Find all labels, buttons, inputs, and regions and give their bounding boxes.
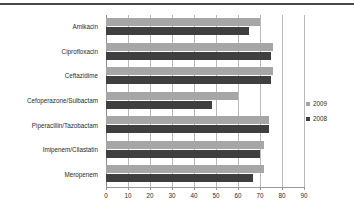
- x-tick-label: 10: [116, 192, 140, 200]
- x-tick-label: 30: [160, 192, 184, 200]
- bar-chart-figure: AmikacinCiprofloxacinCeftazidimeCefopera…: [0, 0, 354, 214]
- legend-label: 2008: [313, 115, 327, 123]
- x-tick: [194, 187, 195, 190]
- bar-2009: [106, 165, 264, 173]
- x-tick-label: 70: [248, 192, 272, 200]
- category-label: Amikacin: [0, 23, 98, 31]
- category-label: Ciprofloxacin: [0, 48, 98, 56]
- bar-2009: [106, 141, 264, 149]
- legend-swatch-icon: [306, 102, 310, 106]
- bar-2009: [106, 18, 260, 26]
- x-tick-label: 40: [182, 192, 206, 200]
- bar-2008: [106, 125, 269, 133]
- x-tick-label: 0: [94, 192, 118, 200]
- plot-area: [106, 15, 304, 187]
- legend-swatch-icon: [306, 117, 310, 121]
- category-label: Piperacillin/Tazobactam: [0, 122, 98, 130]
- legend-item[interactable]: 2008: [306, 111, 350, 126]
- bar-group: [106, 138, 304, 163]
- bar-group: [106, 15, 304, 40]
- x-tick-label: 60: [226, 192, 250, 200]
- x-tick: [106, 187, 107, 190]
- x-tick: [172, 187, 173, 190]
- legend-label: 2009: [313, 100, 327, 108]
- bar-group: [106, 162, 304, 187]
- chart-legend: 20092008: [306, 96, 350, 126]
- x-tick: [304, 187, 305, 190]
- category-label: Imipenem/Cilastatin: [0, 146, 98, 154]
- bar-2008: [106, 27, 249, 35]
- category-label: Meropenem: [0, 171, 98, 179]
- category-label: Ceftazidime: [0, 72, 98, 80]
- bar-group: [106, 89, 304, 114]
- bar-2008: [106, 101, 212, 109]
- bar-group: [106, 40, 304, 65]
- x-tick: [238, 187, 239, 190]
- x-tick: [282, 187, 283, 190]
- bar-rows: [106, 15, 304, 187]
- x-tick: [216, 187, 217, 190]
- legend-item[interactable]: 2009: [306, 96, 350, 111]
- x-tick: [150, 187, 151, 190]
- bar-group: [106, 113, 304, 138]
- gridline-90: [304, 15, 305, 187]
- x-tick-label: 20: [138, 192, 162, 200]
- bar-group: [106, 64, 304, 89]
- bar-2008: [106, 76, 271, 84]
- bar-2009: [106, 92, 238, 100]
- x-tick: [260, 187, 261, 190]
- bar-2009: [106, 43, 273, 51]
- x-tick: [128, 187, 129, 190]
- bar-2008: [106, 150, 260, 158]
- x-tick-label: 90: [292, 192, 316, 200]
- bar-2008: [106, 52, 271, 60]
- x-tick-label: 80: [270, 192, 294, 200]
- x-tick-label: 50: [204, 192, 228, 200]
- x-axis-line: [106, 187, 304, 188]
- bar-2009: [106, 116, 269, 124]
- bar-2009: [106, 67, 273, 75]
- bar-2008: [106, 174, 253, 182]
- header-divider: [0, 3, 354, 5]
- category-axis-labels: AmikacinCiprofloxacinCeftazidimeCefopera…: [0, 15, 102, 187]
- category-label: Cefoperazone/Sulbactam: [0, 97, 98, 105]
